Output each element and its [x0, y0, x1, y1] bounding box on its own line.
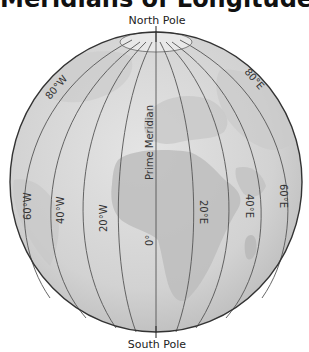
- meridian-label-40e: 40°E: [244, 194, 255, 218]
- meridian-label-20w: 20°W: [98, 204, 109, 232]
- meridian-label-0: 0°: [144, 235, 155, 246]
- prime-meridian-label: Prime Meridian: [144, 105, 155, 180]
- meridian-label-60e: 60°E: [278, 184, 289, 208]
- meridian-label-40w: 40°W: [55, 196, 66, 224]
- globe: Prime Meridian 0° 80°W 60°W 40°W 20°W 20…: [0, 0, 309, 352]
- meridian-label-20e: 20°E: [198, 200, 209, 224]
- south-pole-label: South Pole: [97, 338, 217, 351]
- meridian-label-60w: 60°W: [22, 192, 33, 220]
